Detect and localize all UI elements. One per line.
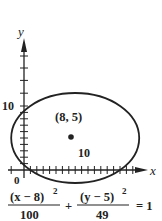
equation-plus: + [65, 199, 72, 213]
y-tick-label: 10 [2, 99, 14, 113]
equation-term2-exponent: 2 [122, 186, 127, 196]
y-axis-arrow-icon [21, 38, 27, 52]
x-tick-label: 10 [78, 146, 90, 160]
x-axis-label: x [149, 163, 156, 178]
equation-term1-exponent: 2 [53, 186, 58, 196]
ellipse-diagram: y x 10 10 0 (8, 5) (x − 8) 2 100 + (y − … [0, 0, 162, 221]
origin-label: 0 [14, 174, 20, 186]
y-axis-label: y [16, 24, 24, 39]
center-point [68, 134, 74, 140]
equation-term1-denominator: 100 [20, 208, 39, 221]
equation-rhs: = 1 [136, 199, 153, 213]
center-label: (8, 5) [55, 110, 82, 124]
equation-term1-numerator: (x − 8) [10, 190, 44, 204]
ellipse-equation: (x − 8) 2 100 + (y − 5) 2 49 = 1 [8, 186, 153, 221]
equation-term2-denominator: 49 [96, 208, 109, 221]
x-axis-arrow-icon [135, 167, 148, 173]
equation-term2-numerator: (y − 5) [80, 190, 114, 204]
